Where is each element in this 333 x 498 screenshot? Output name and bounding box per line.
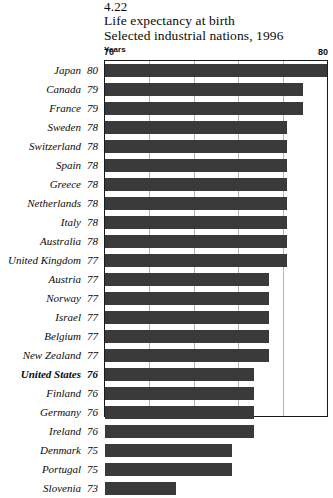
axis-tick-max: 80 xyxy=(318,47,328,57)
bar xyxy=(105,311,269,324)
value-label: 76 xyxy=(82,387,98,400)
bar-row: Switzerland78 xyxy=(0,137,333,156)
bar-row: France79 xyxy=(0,99,333,118)
value-label: 75 xyxy=(82,444,98,457)
value-label: 77 xyxy=(82,292,98,305)
value-label: 78 xyxy=(82,216,98,229)
value-label: 78 xyxy=(82,140,98,153)
bar-row: Australia78 xyxy=(0,232,333,251)
axis-tick-min: 70 xyxy=(104,47,114,57)
bar xyxy=(105,178,287,191)
figure-title-line-1: Life expectancy at birth xyxy=(104,14,333,29)
bar-rows: Japan80Canada79France79Sweden78Switzerla… xyxy=(0,60,333,417)
value-label: 76 xyxy=(82,406,98,419)
bar xyxy=(105,273,269,286)
country-label: Belgium xyxy=(0,330,81,343)
bar xyxy=(105,83,303,96)
country-label: Austria xyxy=(0,273,81,286)
country-label: Netherlands xyxy=(0,197,81,210)
bar xyxy=(105,235,287,248)
country-label: Germany xyxy=(0,406,81,419)
bar-row: Israel77 xyxy=(0,308,333,327)
bar-row: Japan80 xyxy=(0,61,333,80)
bar-row: Spain78 xyxy=(0,156,333,175)
bar-row: Denmark75 xyxy=(0,441,333,460)
bar-row: Austria77 xyxy=(0,270,333,289)
country-label: Canada xyxy=(0,83,81,96)
figure-title-line-2: Selected industrial nations, 1996 xyxy=(104,29,333,44)
bar-row: Sweden78 xyxy=(0,118,333,137)
country-label: Ireland xyxy=(0,425,81,438)
bar-row: United States76 xyxy=(0,365,333,384)
bar-row: Finland76 xyxy=(0,384,333,403)
country-label: Finland xyxy=(0,387,81,400)
bar-row: Belgium77 xyxy=(0,327,333,346)
axis-tick-labels: 70 80 xyxy=(104,47,328,59)
bar xyxy=(105,368,254,381)
value-label: 78 xyxy=(82,197,98,210)
value-label: 78 xyxy=(82,178,98,191)
bar xyxy=(105,444,232,457)
bar xyxy=(105,482,176,495)
bar xyxy=(105,102,303,115)
bar-row: Netherlands78 xyxy=(0,194,333,213)
figure-number: 4.22 xyxy=(104,0,333,14)
bar xyxy=(105,121,287,134)
value-label: 73 xyxy=(82,482,98,495)
bar xyxy=(105,140,287,153)
bar xyxy=(105,292,269,305)
value-label: 77 xyxy=(82,254,98,267)
bar xyxy=(105,349,269,362)
bar-row: Portugal75 xyxy=(0,460,333,479)
country-label: New Zealand xyxy=(0,349,81,362)
value-label: 77 xyxy=(82,330,98,343)
value-label: 78 xyxy=(82,235,98,248)
value-label: 77 xyxy=(82,349,98,362)
value-label: 76 xyxy=(82,425,98,438)
bar-row: Greece78 xyxy=(0,175,333,194)
bar xyxy=(105,216,287,229)
bar-row: United Kingdom77 xyxy=(0,251,333,270)
bar-row: Ireland76 xyxy=(0,422,333,441)
value-label: 78 xyxy=(82,121,98,134)
bar-row: Italy78 xyxy=(0,213,333,232)
bar xyxy=(105,254,287,267)
country-label: France xyxy=(0,102,81,115)
country-label: Sweden xyxy=(0,121,81,134)
country-label: Israel xyxy=(0,311,81,324)
value-label: 80 xyxy=(82,64,98,77)
bar-row: Germany76 xyxy=(0,403,333,422)
value-label: 79 xyxy=(82,83,98,96)
value-label: 77 xyxy=(82,311,98,324)
country-label: Portugal xyxy=(0,463,81,476)
bar xyxy=(105,159,287,172)
country-label: Slovenia xyxy=(0,482,81,495)
bar xyxy=(105,387,254,400)
country-label: United States xyxy=(0,368,81,381)
country-label: Japan xyxy=(0,64,81,77)
bar xyxy=(105,463,232,476)
value-label: 77 xyxy=(82,273,98,286)
country-label: Denmark xyxy=(0,444,81,457)
value-label: 79 xyxy=(82,102,98,115)
bar-row: New Zealand77 xyxy=(0,346,333,365)
country-label: Australia xyxy=(0,235,81,248)
bar-row: Slovenia73 xyxy=(0,479,333,498)
bar xyxy=(105,197,287,210)
bar-row: Norway77 xyxy=(0,289,333,308)
value-label: 75 xyxy=(82,463,98,476)
value-label: 76 xyxy=(82,368,98,381)
country-label: Italy xyxy=(0,216,81,229)
country-label: Spain xyxy=(0,159,81,172)
value-label: 78 xyxy=(82,159,98,172)
bar-row: Canada79 xyxy=(0,80,333,99)
country-label: Norway xyxy=(0,292,81,305)
bar xyxy=(105,406,254,419)
bar xyxy=(105,425,254,438)
country-label: Greece xyxy=(0,178,81,191)
country-label: Switzerland xyxy=(0,140,81,153)
country-label: United Kingdom xyxy=(0,254,81,267)
bar xyxy=(105,330,269,343)
bar xyxy=(105,64,327,77)
